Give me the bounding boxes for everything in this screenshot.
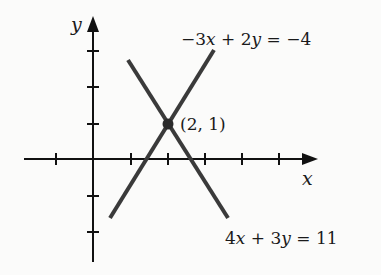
x-axis-arrow-icon [302, 153, 318, 165]
line-2-equation: 4x + 3y = 11 [225, 228, 338, 248]
line-1 [110, 50, 214, 218]
line-2 [128, 60, 228, 218]
y-axis [87, 16, 99, 262]
coordinate-plane: y x (2, 1) −3x + 2y = −4 4x + 3y = 11 [0, 0, 381, 275]
y-axis-label: y [70, 13, 82, 35]
x-axis-label: x [302, 167, 313, 189]
x-axis [24, 153, 318, 165]
line-1-equation: −3x + 2y = −4 [181, 29, 311, 49]
intersection-label: (2, 1) [180, 114, 226, 134]
y-axis-arrow-icon [87, 16, 99, 32]
intersection-point [163, 119, 174, 130]
